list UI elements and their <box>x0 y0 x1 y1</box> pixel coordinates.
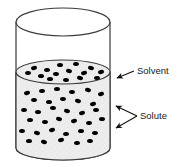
solvent-callout: Solvent <box>117 65 169 78</box>
solvent-label: Solvent <box>137 65 169 76</box>
solution-diagram-figure: Solvent Solute <box>0 0 183 167</box>
solute-dot <box>38 74 44 78</box>
solute-dot <box>26 139 32 143</box>
solute-dot <box>46 100 52 104</box>
cylinder-top-rim <box>16 8 110 36</box>
solute-dot <box>35 110 41 114</box>
solvent-leader-arrow <box>117 71 134 78</box>
solute-dot <box>47 77 53 81</box>
solvent-fill <box>16 72 110 160</box>
solute-label: Solute <box>140 110 167 121</box>
solute-dot <box>99 117 105 121</box>
diagram-canvas: Solvent Solute <box>0 0 183 167</box>
solute-callout: Solute <box>116 106 167 128</box>
solute-dot <box>78 129 84 133</box>
solute-leader-arrow-upper <box>116 106 137 116</box>
solute-dot <box>27 118 33 122</box>
solute-dot <box>54 87 60 91</box>
solute-dot <box>57 63 63 67</box>
solute-leader-arrow-lower <box>116 116 137 128</box>
